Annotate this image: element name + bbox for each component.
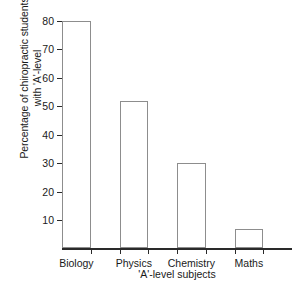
bar bbox=[62, 21, 91, 248]
y-axis-tick-label: 40 bbox=[42, 129, 54, 141]
x-axis-tick bbox=[235, 249, 236, 254]
y-axis-tick-label: 10 bbox=[42, 214, 54, 226]
x-axis-tick bbox=[91, 249, 92, 254]
x-axis-title: 'A'-level subjects bbox=[62, 268, 292, 280]
y-axis-title: Percentage of chiropractic students with… bbox=[16, 0, 46, 183]
x-axis-tick bbox=[148, 249, 149, 254]
x-axis-tick bbox=[263, 249, 264, 254]
bar bbox=[235, 229, 264, 249]
y-axis-tick-label: 30 bbox=[42, 157, 54, 169]
plot-area: 1020304050607080 BiologyPhysicsChemistry… bbox=[62, 21, 292, 250]
y-axis-tick-label: 20 bbox=[42, 186, 54, 198]
bar-chart-figure: Percentage of chiropractic students with… bbox=[0, 0, 300, 291]
y-axis-title-line-1: Percentage of chiropractic students bbox=[18, 0, 31, 159]
bar bbox=[120, 101, 149, 249]
y-axis-tick-label: 80 bbox=[42, 15, 54, 27]
x-axis-tick bbox=[177, 249, 178, 254]
x-axis-tick bbox=[120, 249, 121, 254]
bar bbox=[177, 163, 206, 248]
y-axis-tick-label: 70 bbox=[42, 43, 54, 55]
x-axis-tick bbox=[206, 249, 207, 254]
y-axis-tick-label: 60 bbox=[42, 72, 54, 84]
y-axis-tick-label: 50 bbox=[42, 100, 54, 112]
